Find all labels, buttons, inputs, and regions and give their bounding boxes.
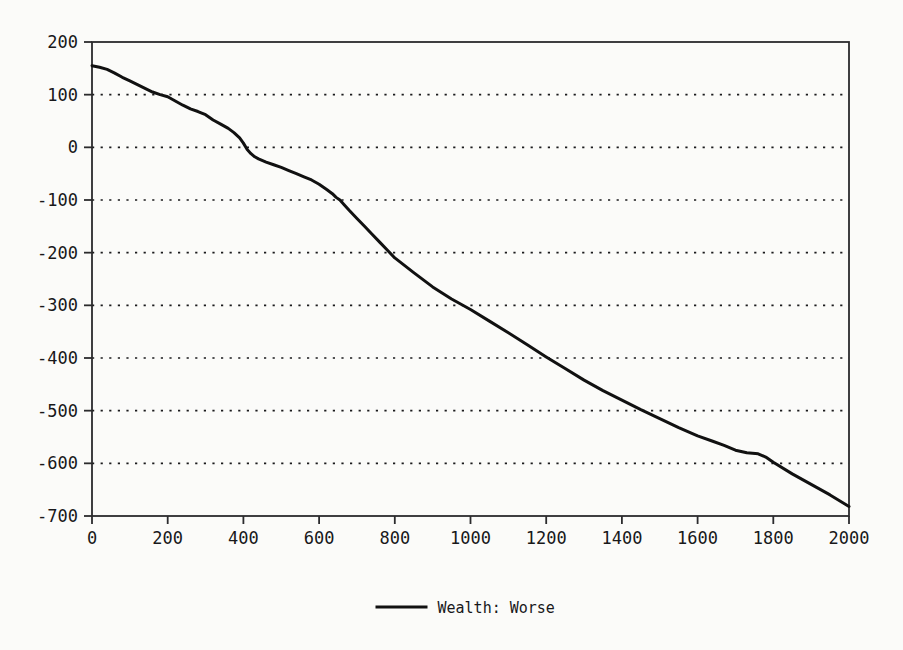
y-tick-label: -200: [37, 243, 78, 263]
x-axis-tick-labels: 0200400600800100012001400160018002000: [87, 528, 870, 548]
grid-lines: [92, 95, 849, 464]
x-tick-label: 600: [304, 528, 335, 548]
legend-label[interactable]: Wealth: Worse: [438, 599, 555, 617]
x-tick-label: 400: [228, 528, 259, 548]
x-axis-ticks: [92, 516, 849, 524]
chart-legend[interactable]: Wealth: Worse: [376, 599, 555, 617]
chart-canvas: 0200400600800100012001400160018002000 20…: [0, 0, 903, 650]
chart-page: 0200400600800100012001400160018002000 20…: [0, 0, 903, 650]
x-tick-label: 1800: [753, 528, 794, 548]
x-tick-label: 1600: [677, 528, 718, 548]
y-tick-label: -400: [37, 348, 78, 368]
x-tick-label: 200: [152, 528, 183, 548]
y-tick-label: -700: [37, 506, 78, 526]
y-tick-label: 100: [47, 85, 78, 105]
x-tick-label: 0: [87, 528, 97, 548]
y-tick-label: 200: [47, 32, 78, 52]
series-line: [92, 66, 849, 507]
x-tick-label: 800: [379, 528, 410, 548]
y-tick-label: -500: [37, 401, 78, 421]
x-tick-label: 2000: [829, 528, 870, 548]
y-tick-label: -300: [37, 295, 78, 315]
x-tick-label: 1400: [601, 528, 642, 548]
y-tick-label: -100: [37, 190, 78, 210]
y-tick-label: 0: [68, 137, 78, 157]
x-tick-label: 1000: [450, 528, 491, 548]
x-tick-label: 1200: [526, 528, 567, 548]
y-axis-tick-labels: 2001000-100-200-300-400-500-600-700: [37, 32, 78, 526]
line-chart-figure: 0200400600800100012001400160018002000 20…: [0, 0, 903, 650]
data-series-lines: [92, 66, 849, 507]
y-axis-ticks: [84, 42, 92, 516]
y-tick-label: -600: [37, 453, 78, 473]
